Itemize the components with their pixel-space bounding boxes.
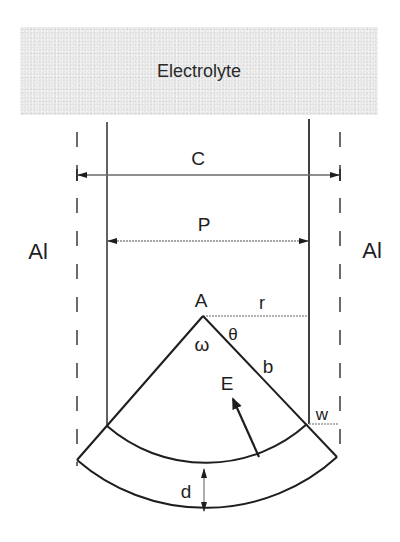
b-label: b: [263, 356, 274, 377]
pore-geometry-diagram: C P Al Al A r θ ω b E w d: [0, 0, 400, 542]
e-label: E: [221, 373, 234, 394]
p-label: P: [198, 214, 211, 235]
right-al-label: Al: [362, 238, 382, 263]
theta-label: θ: [228, 325, 237, 344]
d-label: d: [181, 481, 192, 502]
e-field-arrow: [233, 399, 259, 457]
r-label: r: [259, 293, 265, 313]
w-label: w: [315, 405, 329, 424]
apex-label: A: [195, 290, 208, 311]
c-label: C: [191, 148, 205, 169]
outer-arc: [77, 457, 337, 508]
inner-arc: [107, 424, 307, 463]
omega-label: ω: [195, 334, 210, 355]
left-al-label: Al: [28, 239, 48, 264]
left-cone-side: [77, 316, 203, 460]
